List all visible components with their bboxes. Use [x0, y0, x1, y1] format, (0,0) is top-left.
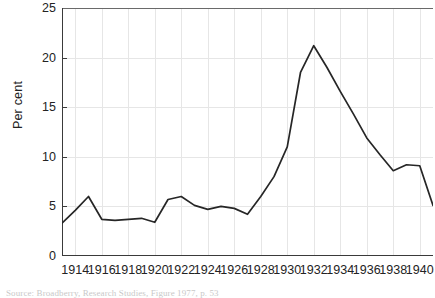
x-axis-tick-labels: 1914191619181920192219241926192819301932…	[0, 262, 435, 280]
unemployment-series-line	[62, 46, 433, 224]
y-tick-label: 0	[4, 250, 56, 262]
source-caption: Source: Broadberry, Research Studies, Fi…	[6, 288, 219, 298]
plot-area	[62, 8, 433, 256]
y-tick-label: 20	[4, 52, 56, 64]
y-axis-tick-labels: 0510152025	[0, 0, 56, 295]
plot-svg	[62, 8, 433, 256]
y-tick-label: 25	[4, 2, 56, 14]
y-tick-label: 15	[4, 101, 56, 113]
y-tick-label: 10	[4, 151, 56, 163]
y-tick-label: 5	[4, 200, 56, 212]
horizontal-gridlines	[62, 59, 433, 207]
x-tick-label: 1940	[400, 262, 435, 278]
